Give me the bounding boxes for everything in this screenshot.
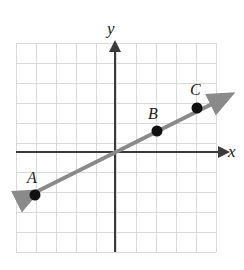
y-axis-label: y <box>107 20 115 37</box>
x-axis-label: x <box>228 143 236 160</box>
point-label-B: B <box>148 106 158 122</box>
graph-canvas <box>0 0 244 270</box>
point-label-A: A <box>27 170 37 186</box>
data-point-B <box>152 126 163 137</box>
coordinate-plane-figure: y x A B C <box>0 0 244 270</box>
data-point-A <box>30 190 41 201</box>
point-label-C: C <box>190 82 201 98</box>
data-point-C <box>192 103 203 114</box>
